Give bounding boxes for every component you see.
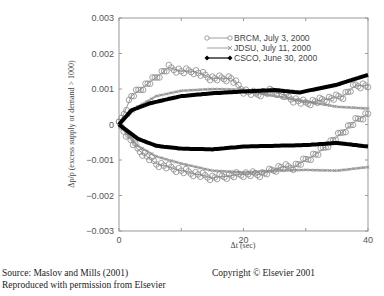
x-tick-label: 40 — [363, 235, 373, 245]
y-tick-label: 0.002 — [91, 49, 114, 59]
x-axis-title: Δt (sec) — [231, 241, 256, 250]
legend-label: JDSU, July 11, 2000 — [234, 43, 311, 53]
x-tick-label: 0 — [116, 235, 121, 245]
y-axis: 0.0030.0020.0010−0.001−0.002−0.003 — [86, 13, 368, 236]
chart: 0.0030.0020.0010−0.001−0.002−0.003 02040… — [0, 0, 384, 296]
legend: BRCM, July 3, 2000JDSU, July 11, 2000CSC… — [205, 33, 318, 63]
permission-line: Reproduced with permission from Elsevier — [2, 279, 166, 291]
open-circle-marker-icon — [228, 36, 232, 40]
y-tick-label: 0.001 — [91, 84, 114, 94]
legend-item: CSCO, June 30, 2000 — [205, 53, 318, 63]
series-brcm — [116, 62, 371, 183]
legend-label: CSCO, June 30, 2000 — [234, 53, 317, 63]
y-tick-label: −0.001 — [86, 155, 114, 165]
series-layer — [116, 62, 371, 183]
legend-item: BRCM, July 3, 2000 — [205, 33, 310, 43]
source-caption: Source: Maslov and Mills (2001) Reproduc… — [2, 267, 166, 291]
y-tick-label: −0.002 — [86, 191, 114, 201]
diamond-marker-icon — [205, 56, 210, 61]
legend-item: JDSU, July 11, 2000 — [207, 43, 311, 53]
y-tick-label: 0.003 — [91, 13, 114, 23]
y-tick-label: 0 — [109, 120, 114, 130]
y-axis-title: Δp/p (excess supply or demand > 1000) — [67, 60, 76, 188]
diamond-marker-icon — [228, 56, 233, 61]
copyright-caption: Copyright © Elsevier 2001 — [212, 267, 315, 279]
legend-label: BRCM, July 3, 2000 — [234, 33, 310, 43]
open-circle-marker-icon — [205, 36, 209, 40]
y-tick-label: −0.003 — [86, 226, 114, 236]
source-line: Source: Maslov and Mills (2001) — [2, 267, 166, 279]
